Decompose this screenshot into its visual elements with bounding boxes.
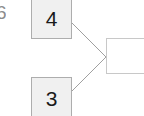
clipped-left-glyph: 6 [0, 2, 6, 24]
edge-4-to-empty [72, 23, 106, 57]
node-3[interactable]: 3 [31, 77, 72, 116]
edge-3-to-empty [72, 57, 106, 91]
node-3-label: 3 [46, 87, 58, 108]
node-empty[interactable] [106, 38, 144, 74]
node-4-label: 4 [46, 7, 58, 28]
node-4[interactable]: 4 [31, 0, 72, 39]
diagram-canvas: 6 4 3 [0, 0, 144, 116]
